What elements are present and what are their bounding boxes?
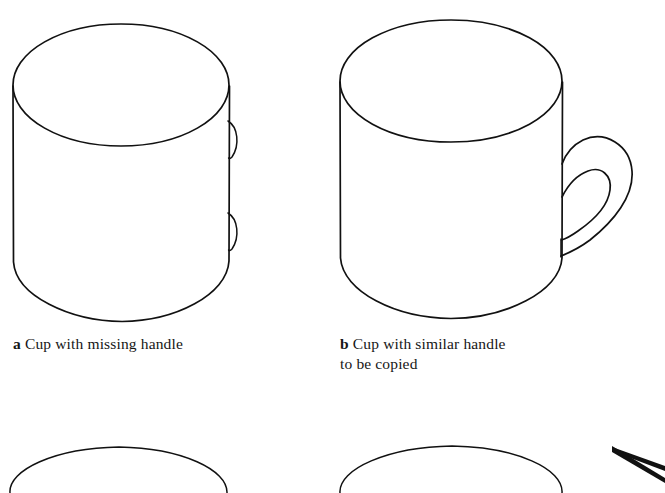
cropped-cup-top-right (340, 446, 562, 493)
cup-b-drawing (340, 20, 632, 319)
cup-a-rim (13, 24, 229, 146)
caption-a-marker: a (13, 335, 21, 352)
caption-a-text: Cup with missing handle (25, 335, 183, 352)
caption-a: a Cup with missing handle (13, 334, 313, 354)
cropped-cup-top-left (10, 447, 227, 493)
cup-b-rim (340, 20, 562, 142)
caption-b-marker: b (340, 335, 349, 352)
figure-root: a Cup with missing handle b Cup with sim… (0, 0, 665, 493)
caption-b-text-line2: to be copied (340, 355, 418, 372)
cup-b-handle-outer (561, 137, 632, 256)
caption-b: b Cup with similar handleto be copied (340, 334, 570, 374)
caption-b-text-line1: Cup with similar handle (353, 335, 506, 352)
cup-a-drawing (13, 24, 237, 322)
cup-b-body (340, 82, 563, 319)
bottom-row-drawings (10, 446, 665, 493)
cup-a-body (13, 86, 230, 322)
figure-canvas (0, 0, 665, 493)
